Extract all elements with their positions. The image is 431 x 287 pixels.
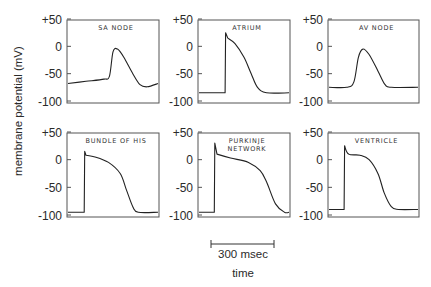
- scale-bar-label: 300 msec: [218, 248, 268, 260]
- panel-sa-node: +500-50-100SA NODE: [38, 13, 159, 109]
- y-tick-label: 0: [186, 153, 193, 167]
- y-tick-label: 0: [316, 153, 323, 167]
- panel-title: VENTRICLE: [355, 137, 398, 145]
- panel-purkinje-network: +500-50-100PURKINJENETWORK: [169, 126, 290, 223]
- y-tick-label: +50: [303, 126, 324, 140]
- panel-ventricle: +500-50-100VENTRICLE: [299, 126, 419, 223]
- action-potential-trace: [68, 151, 158, 212]
- panel-title: NETWORK: [228, 145, 267, 153]
- time-scale-bar: 300 msec: [211, 240, 274, 260]
- panel-frame: [67, 20, 159, 103]
- panel-frame: [198, 20, 290, 103]
- y-tick-label: 0: [55, 40, 62, 54]
- y-tick-label: -50: [45, 181, 63, 195]
- action-potential-trace: [68, 48, 158, 87]
- y-tick-label: +50: [42, 13, 63, 27]
- x-axis-label: time: [232, 267, 254, 279]
- y-tick-label: +50: [42, 126, 63, 140]
- y-tick-label: +50: [303, 13, 324, 27]
- y-tick-label: 0: [316, 40, 323, 54]
- action-potential-trace: [329, 49, 418, 88]
- panel-title: PURKINJE: [229, 137, 266, 145]
- y-tick-label: +50: [173, 126, 194, 140]
- panel-title: SA NODE: [98, 24, 133, 32]
- panel-title: BUNDLE OF HIS: [85, 137, 146, 145]
- y-tick-label: -100: [299, 209, 323, 223]
- action-potential-trace: [199, 143, 289, 213]
- panel-frame: [328, 133, 419, 217]
- y-tick-label: -50: [45, 67, 63, 81]
- y-tick-label: +50: [173, 13, 194, 27]
- panel-atrium: +500-50-100ATRIUM: [169, 13, 290, 109]
- y-tick-label: -100: [169, 209, 193, 223]
- y-axis-label: membrane potential (mV): [12, 46, 24, 176]
- y-tick-label: -50: [306, 67, 324, 81]
- y-tick-label: -100: [169, 95, 193, 109]
- action-potential-trace: [199, 33, 289, 93]
- y-tick-label: -100: [299, 95, 323, 109]
- panel-bundle-of-his: +500-50-100BUNDLE OF HIS: [38, 126, 159, 223]
- action-potential-trace: [329, 146, 418, 210]
- panel-title: AV NODE: [359, 24, 394, 32]
- y-tick-label: -100: [38, 209, 62, 223]
- y-tick-label: -50: [306, 181, 324, 195]
- y-tick-label: 0: [55, 153, 62, 167]
- panel-title: ATRIUM: [232, 24, 262, 32]
- y-tick-label: -100: [38, 95, 62, 109]
- panels-grid: +500-50-100SA NODE+500-50-100ATRIUM+500-…: [38, 13, 419, 223]
- y-tick-label: -50: [176, 181, 194, 195]
- panel-frame: [67, 133, 159, 217]
- y-tick-label: -50: [176, 67, 194, 81]
- y-tick-label: 0: [186, 40, 193, 54]
- action-potential-chart: membrane potential (mV) +500-50-100SA NO…: [0, 0, 431, 287]
- panel-av-node: +500-50-100AV NODE: [299, 13, 419, 109]
